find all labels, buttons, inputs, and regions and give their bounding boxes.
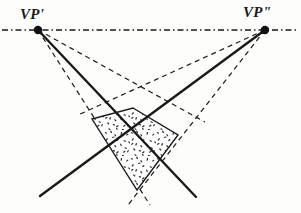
figure-canvas: VP' VP" <box>0 0 301 213</box>
vanishing-point-left-dot <box>34 26 42 34</box>
vanishing-point-right-label: VP" <box>243 4 271 21</box>
vanishing-point-right-dot <box>261 26 269 34</box>
solid-ray-vp-left <box>38 30 196 197</box>
vanishing-point-left-label: VP' <box>20 6 44 23</box>
perspective-diagram <box>0 0 301 213</box>
solid-ray-vp-right <box>40 30 265 196</box>
dashed-ray-vp-left-upper <box>38 30 205 122</box>
